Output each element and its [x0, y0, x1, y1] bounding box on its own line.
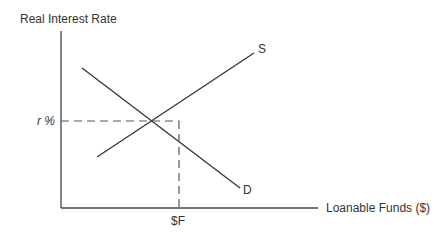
x-axis-label: Loanable Funds ($): [326, 201, 430, 215]
supply-label: S: [258, 42, 266, 56]
demand-curve: [82, 68, 240, 188]
supply-curve: [97, 53, 254, 157]
equilibrium-rate-label: r %: [37, 114, 55, 128]
equilibrium-quantity-label: $F: [171, 214, 185, 228]
y-axis-label: Real Interest Rate: [20, 12, 117, 26]
demand-label: D: [243, 183, 252, 197]
